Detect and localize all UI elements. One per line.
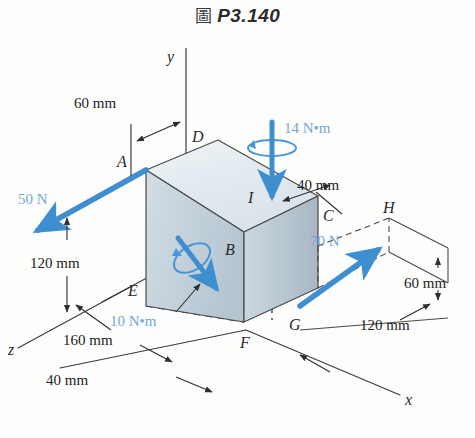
dim-120mm-right: 120 mm: [300, 304, 430, 372]
point-label-F: F: [239, 334, 250, 351]
dim-40mm-bottom-label: 40 mm: [46, 372, 88, 388]
dim-60mm-right: 60 mm: [404, 258, 446, 300]
dim-160mm-bottom-label: 160 mm: [63, 332, 113, 348]
mechanics-diagram: y: [0, 0, 475, 438]
dim-40mm-bottom-arrow: [176, 377, 212, 392]
point-label-H: H: [382, 199, 396, 216]
dim-120mm-left-label: 120 mm: [30, 255, 80, 271]
force-50n-label: 50 N: [18, 191, 48, 207]
z-axis-label: z: [7, 341, 15, 358]
ref-edge-H-right: [389, 218, 448, 248]
point-label-B: B: [225, 241, 235, 258]
point-label-I: I: [247, 189, 254, 206]
dim-120mm-right-label: 120 mm: [360, 317, 410, 333]
point-label-C: C: [323, 207, 334, 224]
dim-60mm-top-arrow: [137, 122, 180, 141]
box-solid: [146, 140, 318, 322]
dim-60mm-top-label: 60 mm: [74, 95, 116, 111]
x-axis-line: [246, 330, 400, 395]
x-axis-label: x: [404, 391, 412, 408]
point-label-A: A: [116, 153, 127, 170]
point-label-G: G: [289, 316, 301, 333]
dim-160mm-leader: [76, 305, 111, 330]
point-label-E: E: [127, 282, 138, 299]
figure-root: 圖P3.140: [0, 0, 475, 438]
dim-160mm-arrow-right: [140, 345, 172, 362]
couple-10nm-label: 10 N•m: [110, 313, 157, 329]
force-50n-arrow: [38, 170, 146, 230]
dim-40mm-top-right-label: 40 mm: [297, 177, 339, 193]
dim-40mm-bottom: 40 mm: [46, 372, 212, 392]
dim-60mm-right-label: 60 mm: [404, 275, 446, 291]
couple-14nm-label: 14 N•m: [284, 120, 331, 136]
point-label-D: D: [191, 128, 204, 145]
force-50n: 50 N: [18, 170, 146, 230]
force-70n-label: 70 N: [310, 233, 340, 249]
y-axis-label: y: [165, 48, 175, 66]
